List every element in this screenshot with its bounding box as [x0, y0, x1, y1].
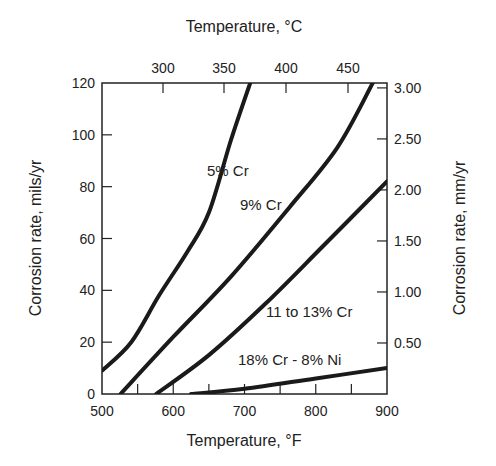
x2-tick-label: 350: [212, 60, 236, 76]
x-axis-title: Temperature, °F: [187, 432, 302, 449]
x2-tick-label: 300: [151, 60, 175, 76]
y-tick-label: 80: [79, 179, 95, 195]
series-curve: [102, 83, 250, 371]
y2-tick-label: 2.00: [394, 182, 421, 198]
y-tick-label: 20: [79, 334, 95, 350]
y2-tick-label: 2.50: [394, 131, 421, 147]
y-tick-label: 0: [87, 386, 95, 402]
y2-axis-title: Corrosion rate, mm/yr: [451, 160, 468, 315]
x-tick-label: 900: [375, 403, 399, 419]
series-label: 5% Cr: [207, 162, 249, 179]
x-tick-label: 500: [90, 403, 114, 419]
y-tick-label: 120: [72, 75, 96, 91]
series-label: 18% Cr - 8% Ni: [238, 351, 341, 368]
y2-tick-label: 1.00: [394, 284, 421, 300]
y2-tick-label: 0.50: [394, 335, 421, 351]
y-tick-label: 100: [72, 127, 96, 143]
y-tick-label: 40: [79, 282, 95, 298]
x2-axis-title: Temperature, °C: [186, 18, 303, 35]
y2-tick-label: 1.50: [394, 233, 421, 249]
x-tick-label: 600: [162, 403, 186, 419]
series-label: 11 to 13% Cr: [266, 303, 352, 320]
plot-frame: [102, 83, 387, 394]
series-curve: [121, 83, 373, 394]
curves: [102, 83, 387, 394]
y-tick-label: 60: [79, 231, 95, 247]
y-axis-title: Corrosion rate, mils/yr: [27, 159, 44, 316]
x2-tick-label: 450: [336, 60, 360, 76]
y2-tick-label: 3.00: [394, 80, 421, 96]
x-tick-label: 800: [304, 403, 328, 419]
series-label: 9% Cr: [240, 196, 282, 213]
x2-tick-label: 400: [274, 60, 298, 76]
corrosion-rate-chart: 5006007008009003003504004500204060801001…: [0, 0, 496, 466]
series-curve: [191, 368, 387, 394]
x-tick-label: 700: [233, 403, 257, 419]
